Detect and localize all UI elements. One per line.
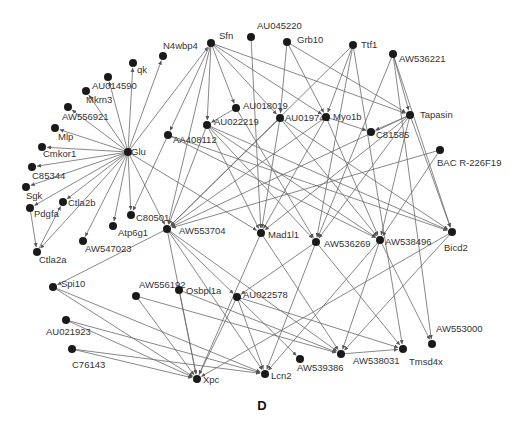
node-dot [127, 211, 135, 219]
node-dot [367, 128, 375, 136]
node-dot [49, 283, 57, 291]
node-label: Tmsd4x [409, 356, 443, 367]
node-label: Xpc [203, 374, 220, 385]
edge [109, 82, 128, 152]
edge [199, 297, 237, 375]
node-label: AU022219 [214, 116, 259, 127]
node-label: Osbpl1a [186, 285, 222, 296]
node-label: AW553000 [436, 323, 483, 334]
node-label: BAC R-226F19 [437, 157, 501, 168]
node-label: Glu [131, 146, 146, 157]
node-au019742: AU019742 [276, 112, 330, 123]
edge [280, 118, 448, 229]
edge [207, 43, 211, 120]
node-c76143: C76143 [68, 345, 105, 370]
node-label: AW536221 [399, 53, 446, 64]
node-atp6g1: Atp6g1 [109, 222, 148, 238]
node-aw538031: AW538031 [337, 350, 400, 366]
node-label: AW539386 [297, 362, 344, 373]
edge [179, 290, 196, 374]
node-aw539386: AW539386 [296, 355, 344, 373]
node-bac-r-226f19: BAC R-226F19 [436, 146, 501, 168]
node-label: AW553704 [179, 225, 226, 236]
node-ctla2b: Ctla2b [59, 197, 95, 208]
node-aa408112: AA408112 [164, 131, 217, 145]
edge [67, 152, 128, 199]
gene-network-graph: SfnAU045220Grb10Ttf1AW536221N4wbp4qkAU01… [0, 0, 522, 424]
node-au014590: AU014590 [92, 73, 137, 91]
node-dot [109, 222, 117, 230]
node-dot [62, 316, 70, 324]
node-cmkor1: Cmkor1 [38, 143, 76, 159]
node-dot [399, 345, 407, 353]
node-dot [129, 59, 137, 67]
edge [211, 43, 234, 103]
edge [207, 125, 313, 238]
node-qk: qk [129, 59, 147, 75]
node-ttf1: Ttf1 [349, 39, 377, 50]
node-tmsd4x: Tmsd4x [399, 345, 443, 367]
node-n4wbp4: N4wbp4 [159, 40, 198, 60]
node-dot [163, 225, 171, 233]
node-label: Bicd2 [444, 242, 468, 253]
node-label: Mkrn3 [86, 94, 112, 105]
node-label: Cmkor1 [43, 148, 76, 159]
node-dot [132, 292, 140, 300]
node-label: AW538031 [353, 355, 400, 366]
node-label: Sfn [219, 30, 233, 41]
edge [380, 240, 430, 340]
node-label: Myo1b [333, 111, 362, 122]
node-dot [257, 229, 265, 237]
node-dot [247, 33, 255, 41]
node-label: AW538496 [385, 236, 432, 247]
node-label: Ttf1 [361, 39, 377, 50]
node-au022578: AU022578 [233, 289, 288, 301]
edge [251, 37, 261, 228]
node-spi10: Spi10 [49, 278, 85, 291]
node-aw547023: AW547023 [79, 237, 132, 254]
node-dot [193, 375, 201, 383]
edge [316, 242, 400, 345]
node-dot [389, 50, 397, 58]
node-label: Atp6g1 [118, 227, 148, 238]
node-label: AU021923 [46, 326, 91, 337]
node-dot [349, 41, 357, 49]
node-dot [233, 293, 241, 301]
node-aw556921: AW556921 [62, 103, 109, 122]
node-dot [232, 104, 240, 112]
node-dot [283, 38, 291, 46]
edge [241, 242, 316, 294]
node-label: N4wbp4 [163, 40, 198, 51]
node-au045220: AU045220 [247, 20, 302, 41]
node-label: Mad1l1 [268, 229, 299, 240]
node-label: Spi10 [61, 278, 85, 289]
node-c81585: C81585 [367, 128, 409, 140]
edge [201, 232, 452, 377]
node-label: AW556921 [62, 111, 109, 122]
node-au018019: AU018019 [232, 100, 288, 112]
node-aw538496: AW538496 [376, 236, 432, 247]
node-label: Sgk [26, 190, 43, 201]
node-dot [64, 103, 72, 111]
edge [136, 296, 336, 353]
panel-label: D [257, 398, 266, 413]
node-dot [59, 198, 67, 206]
node-label: AU045220 [257, 20, 302, 31]
edge [343, 240, 380, 349]
node-label: qk [137, 64, 147, 75]
node-dot [207, 39, 215, 47]
node-dot [337, 350, 345, 358]
node-ctla2a: Ctla2a [33, 248, 67, 265]
node-label: AU018019 [243, 100, 288, 111]
node-label: C81585 [376, 129, 409, 140]
edge [236, 108, 313, 238]
node-label: Mlp [58, 131, 73, 142]
node-label: Tapasin [420, 109, 453, 120]
network-diagram: SfnAU045220Grb10Ttf1AW536221N4wbp4qkAU01… [0, 0, 522, 424]
node-au021923: AU021923 [46, 316, 91, 337]
node-label: Lcn2 [271, 370, 292, 381]
edge [128, 152, 131, 210]
node-lcn2: Lcn2 [261, 370, 292, 381]
node-c80501: C80501 [127, 211, 169, 223]
edge [317, 45, 353, 237]
